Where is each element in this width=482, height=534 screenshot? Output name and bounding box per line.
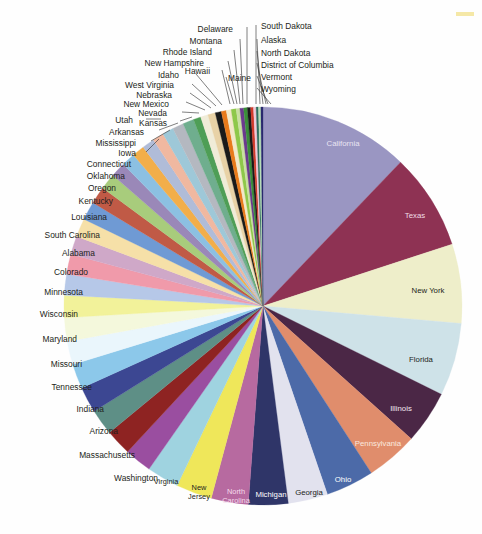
slice-label-illinois: Illinois bbox=[390, 404, 412, 413]
callout-label-washington: Washington bbox=[114, 473, 158, 483]
callout-label-arkansas: Arkansas bbox=[109, 127, 144, 137]
callout-label-nevada: Nevada bbox=[138, 108, 167, 118]
slice-label-new-york: New York bbox=[412, 286, 445, 295]
pie-chart-figure: DelawareSouth DakotaMontanaAlaskaRhode I… bbox=[0, 0, 482, 534]
callout-label-north-dakota: North Dakota bbox=[261, 48, 311, 58]
leader-line-montana bbox=[240, 39, 243, 104]
callout-label-louisiana: Louisiana bbox=[71, 212, 107, 222]
callout-label-maine: Maine bbox=[228, 73, 251, 83]
corner-highlight-mark bbox=[456, 12, 474, 16]
callout-label-kentucky: Kentucky bbox=[79, 196, 114, 206]
slice-label-georgia: Georgia bbox=[295, 488, 323, 497]
callout-label-mississippi: Mississippi bbox=[96, 138, 137, 148]
slice-label-california: California bbox=[327, 139, 361, 148]
callout-label-oregon: Oregon bbox=[88, 183, 116, 193]
callout-label-utah: Utah bbox=[115, 115, 133, 125]
callout-label-wisconsin: Wisconsin bbox=[40, 309, 79, 319]
callout-label-alaska: Alaska bbox=[261, 35, 286, 45]
callout-label-colorado: Colorado bbox=[54, 267, 88, 277]
callout-label-arizona: Arizona bbox=[90, 426, 119, 436]
callout-label-iowa: Iowa bbox=[118, 148, 136, 158]
slice-label-ohio: Ohio bbox=[335, 475, 352, 484]
callout-label-vermont: Vermont bbox=[261, 72, 293, 82]
pie-chart-canvas: DelawareSouth DakotaMontanaAlaskaRhode I… bbox=[0, 0, 482, 534]
callout-label-oklahoma: Oklahoma bbox=[87, 171, 126, 181]
leader-line-new-mexico bbox=[186, 102, 205, 110]
callout-label-connecticut: Connecticut bbox=[87, 159, 132, 169]
callout-label-hawaii: Hawaii bbox=[185, 66, 210, 76]
callout-label-south-dakota: South Dakota bbox=[261, 21, 312, 31]
slice-label-florida: Florida bbox=[409, 355, 433, 364]
callout-label-wyoming: Wyoming bbox=[261, 84, 296, 94]
leader-line-kansas bbox=[180, 117, 192, 121]
callout-label-massachusetts: Massachusetts bbox=[79, 450, 135, 460]
callout-label-idaho: Idaho bbox=[158, 70, 179, 80]
callout-label-montana: Montana bbox=[189, 36, 222, 46]
callout-label-alabama: Alabama bbox=[62, 248, 95, 258]
leader-line-nebraska bbox=[190, 93, 211, 108]
slice-label-virginia: Virginia bbox=[154, 477, 179, 486]
slice-label-pennsylvania: Pennsylvania bbox=[355, 439, 402, 448]
callout-label-minnesota: Minnesota bbox=[44, 287, 83, 297]
callout-label-delaware: Delaware bbox=[198, 24, 234, 34]
callout-label-rhode-island: Rhode Island bbox=[163, 47, 213, 57]
callout-label-tennessee: Tennessee bbox=[51, 382, 92, 392]
callout-label-district-of-columbia: District of Columbia bbox=[261, 60, 334, 70]
callout-label-maryland: Maryland bbox=[43, 334, 78, 344]
callout-label-west-virginia: West Virginia bbox=[125, 80, 174, 90]
leader-line-nevada bbox=[182, 112, 199, 113]
slice-label-michigan: Michigan bbox=[255, 490, 286, 499]
callout-label-indiana: Indiana bbox=[77, 404, 105, 414]
slice-label-texas: Texas bbox=[405, 211, 425, 220]
callout-label-south-carolina: South Carolina bbox=[45, 230, 101, 240]
callout-label-missouri: Missouri bbox=[51, 359, 82, 369]
